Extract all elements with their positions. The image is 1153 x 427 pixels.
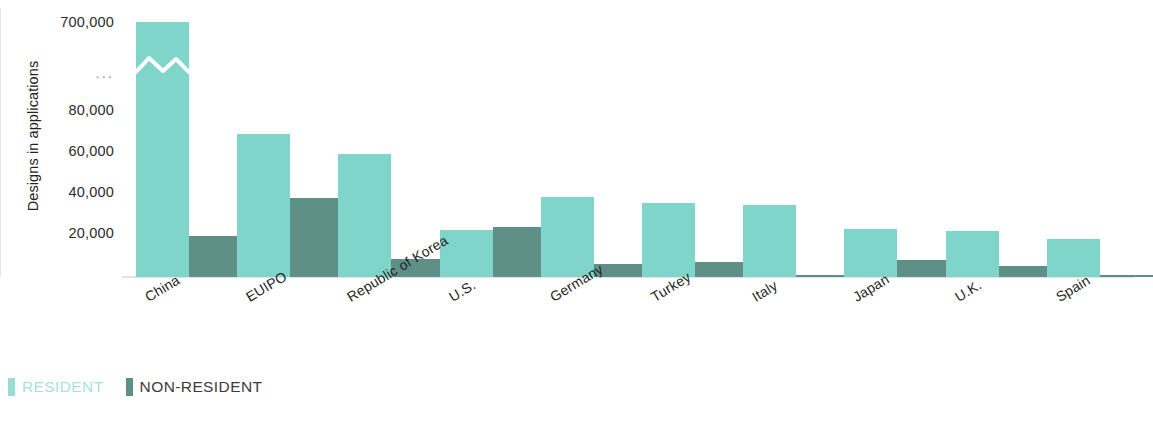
y-axis-tick-label: 700,000 [22, 15, 114, 30]
bar-group [743, 0, 849, 277]
bar-resident [1047, 239, 1100, 277]
x-axis-tick-label: U.S. [446, 277, 478, 305]
y-axis-tick-label: 20,000 [22, 226, 114, 241]
legend-swatch-icon [8, 378, 15, 396]
bar-non-resident [897, 260, 950, 277]
bar-group [844, 0, 950, 277]
bar-group [338, 0, 444, 277]
bar-resident [946, 231, 999, 277]
bar-non-resident [493, 227, 546, 277]
bar-resident [136, 22, 189, 277]
bar-resident [541, 197, 594, 277]
legend-item[interactable]: RESIDENT [8, 378, 104, 396]
y-axis-tick-label: 80,000 [22, 103, 114, 118]
x-axis-tick-label: Italy [749, 277, 780, 304]
y-axis-tick-label: ... [22, 65, 114, 80]
bar-group [642, 0, 748, 277]
bar-resident [844, 229, 897, 277]
x-axis-tick-label: U.K. [952, 277, 984, 305]
bar-series-container [122, 0, 1134, 277]
legend-item[interactable]: NON-RESIDENT [126, 378, 263, 396]
bar-non-resident [999, 266, 1052, 277]
bar-group [440, 0, 546, 277]
legend-swatch-icon [126, 378, 133, 396]
y-axis-tick-label: 40,000 [22, 185, 114, 200]
bar-group [237, 0, 343, 277]
chart-legend: RESIDENTNON-RESIDENT [8, 378, 262, 396]
bar-non-resident [290, 198, 343, 277]
bar-group [541, 0, 647, 277]
bar-group [1047, 0, 1153, 277]
bar-resident [440, 230, 493, 277]
bar-resident [743, 205, 796, 277]
x-axis-tick-label: Spain [1053, 272, 1093, 305]
y-axis-tick-labels: 700,000...80,00060,00040,00020,000 [8, 0, 114, 280]
bar-resident [642, 203, 695, 277]
bar-group [136, 0, 242, 277]
legend-label: NON-RESIDENT [140, 378, 263, 396]
bar-resident [338, 154, 391, 277]
x-axis-tick-label: China [142, 272, 182, 305]
y-axis-tick-label: 60,000 [22, 144, 114, 159]
bar-non-resident [189, 236, 242, 277]
bar-non-resident [695, 262, 748, 277]
bar-group [946, 0, 1052, 277]
y-axis-line [0, 8, 1, 277]
bar-resident [237, 134, 290, 278]
legend-label: RESIDENT [22, 378, 104, 396]
x-axis-tick-labels: ChinaEUIPORepublic of KoreaU.S.GermanyTu… [122, 277, 1134, 372]
